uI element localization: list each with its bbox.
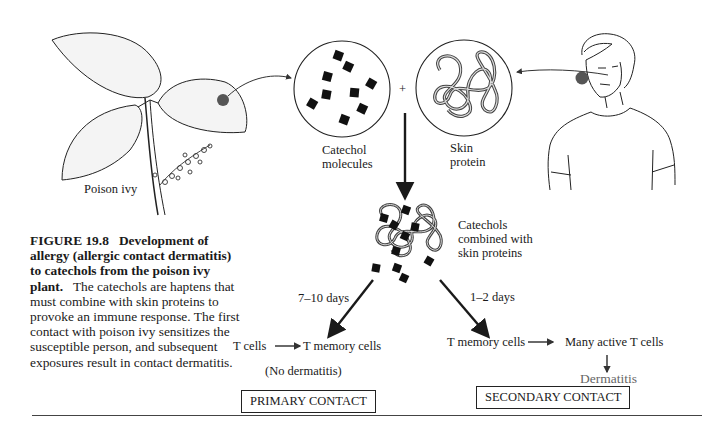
label-dermatitis: Dermatitis: [580, 372, 637, 386]
label-combined-line1: Catechols: [458, 218, 507, 232]
arrow-secondary-path: [440, 280, 487, 335]
bottom-rule: [32, 415, 702, 416]
label-many-active-t-cells: Many active T cells: [565, 335, 663, 349]
label-primary-days: 7–10 days: [298, 291, 349, 305]
label-poison-ivy: Poison ivy: [84, 182, 137, 196]
contact-dot-leaf: [217, 94, 229, 106]
catechol-protein-complex: [371, 205, 441, 284]
primary-contact-box: PRIMARY CONTACT: [241, 390, 376, 413]
arrow-face-to-skin-protein: [517, 70, 608, 75]
secondary-contact-box: SECONDARY CONTACT: [476, 386, 630, 409]
skin-protein-circle: [416, 40, 512, 136]
plus-sign: +: [399, 82, 406, 96]
label-skin-line2: protein: [450, 155, 485, 169]
label-combined-line3: skin proteins: [458, 246, 522, 260]
label-skin-line1: Skin: [450, 141, 473, 155]
label-secondary-days: 1–2 days: [470, 290, 515, 304]
catechol-molecules-circle: [294, 41, 390, 137]
label-t-memory-primary: T memory cells: [303, 339, 381, 353]
label-catechol-line1: Catechol: [322, 143, 366, 157]
label-no-dermatitis: (No dermatitis): [265, 364, 342, 378]
arrow-primary-path: [330, 280, 373, 335]
label-t-memory-secondary: T memory cells: [447, 335, 525, 349]
label-combined-line2: combined with: [458, 232, 533, 246]
poison-ivy-illustration: [52, 33, 247, 215]
label-catechol-line2: molecules: [322, 157, 373, 171]
figure-number: FIGURE 19.8: [30, 233, 109, 248]
poison-ivy-flowers-icon: [153, 144, 212, 185]
figure-caption: FIGURE 19.8 Development of allergy (alle…: [30, 233, 245, 370]
contact-dot-face: [576, 72, 589, 85]
person-illustration: [548, 34, 675, 190]
